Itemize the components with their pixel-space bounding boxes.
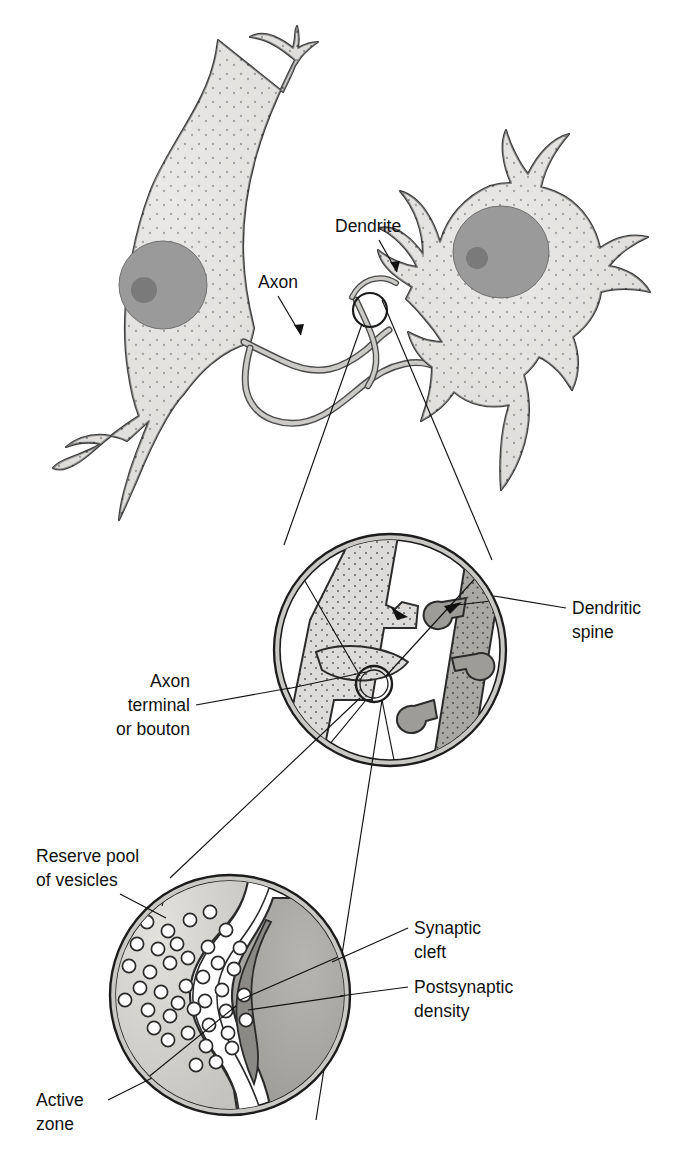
vesicle (239, 1013, 252, 1026)
vesicle (151, 942, 164, 955)
vesicle (199, 1039, 212, 1052)
label-axon: Axon (258, 272, 298, 292)
label-postsynaptic-density-line1: Postsynaptic (414, 977, 513, 997)
vesicle (202, 1018, 215, 1031)
vesicle (179, 979, 192, 992)
synapse-diagram: Dendrite Axon (0, 0, 693, 1168)
vesicle (225, 1041, 238, 1054)
label-dendritic-spine-line1: Dendritic (572, 598, 641, 618)
vesicle (219, 923, 232, 936)
label-synaptic-cleft-line1: Synaptic (414, 918, 481, 938)
vesicle (227, 962, 240, 975)
vesicle (161, 1033, 174, 1046)
vesicle (181, 951, 194, 964)
vesicle (130, 937, 143, 950)
vesicle (170, 937, 183, 950)
presynaptic-nucleolus (131, 277, 157, 303)
vesicle (198, 994, 211, 1007)
vesicle (183, 913, 196, 926)
vesicle (181, 1026, 194, 1039)
label-axon-terminal-line1: Axon (150, 671, 190, 691)
label-axon-terminal-line2: terminal (128, 695, 190, 715)
label-postsynaptic-density-line2: density (414, 1001, 470, 1021)
vesicle (122, 959, 135, 972)
label-synaptic-cleft-line2: cleft (414, 942, 446, 962)
vesicle (233, 941, 246, 954)
vesicle (161, 924, 174, 937)
vesicle (154, 985, 167, 998)
vesicle (189, 1058, 202, 1071)
label-active-zone-line2: zone (36, 1114, 74, 1134)
vesicle (133, 981, 146, 994)
postsynaptic-nucleolus (466, 247, 488, 269)
vesicle (203, 905, 216, 918)
label-axon-terminal-line3: or bouton (116, 719, 190, 739)
label-active-zone-line1: Active (36, 1090, 84, 1110)
vesicle (163, 956, 176, 969)
vesicle (215, 983, 228, 996)
figure-root: Dendrite Axon (0, 0, 693, 1168)
vesicle (211, 956, 224, 969)
label-reserve-pool-line1: Reserve pool (36, 846, 139, 866)
vesicle (163, 1009, 176, 1022)
label-dendritic-spine-line2: spine (572, 622, 614, 642)
label-reserve-pool-line2: of vesicles (36, 870, 118, 890)
vesicle (201, 940, 214, 953)
vesicle (143, 965, 156, 978)
vesicle (147, 1021, 160, 1034)
vesicle (171, 996, 184, 1009)
vesicle (237, 988, 250, 1001)
vesicle (209, 1055, 222, 1068)
vesicle (118, 993, 131, 1006)
postsynaptic-nucleus (453, 206, 549, 298)
vesicle (141, 1003, 154, 1016)
vesicle (196, 970, 209, 983)
label-dendrite: Dendrite (335, 216, 401, 236)
vesicle (221, 1026, 234, 1039)
